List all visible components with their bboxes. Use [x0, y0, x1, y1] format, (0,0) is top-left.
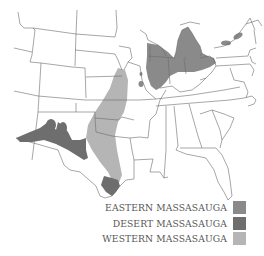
legend-item-western: WESTERN MASSASAUGA	[102, 231, 246, 247]
eastern-swatch	[233, 201, 246, 214]
legend-item-desert: DESERT MASSASAUGA	[102, 216, 246, 232]
state-borders	[14, 10, 262, 200]
western-massasauga-range	[86, 68, 128, 185]
legend-label: DESERT MASSASAUGA	[113, 218, 227, 229]
desert-swatch	[233, 217, 246, 230]
legend-label: WESTERN MASSASAUGA	[102, 233, 227, 244]
western-swatch	[233, 232, 246, 245]
eastern-massasauga-range	[139, 27, 244, 90]
map-legend: EASTERN MASSASAUGA DESERT MASSASAUGA WES…	[102, 200, 246, 247]
legend-item-eastern: EASTERN MASSASAUGA	[102, 200, 246, 216]
legend-label: EASTERN MASSASAUGA	[105, 202, 227, 213]
